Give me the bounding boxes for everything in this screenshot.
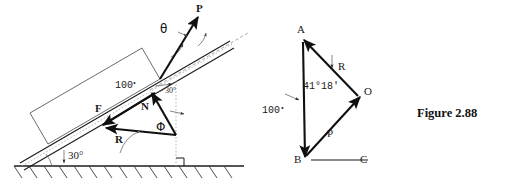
label-f-friction: F [95, 102, 102, 114]
figure-container: 100 • P θ F N R Φ 30° 30° [0, 0, 520, 185]
weight-unit-mark-left: • [133, 79, 136, 88]
incline-extension-dashed [150, 33, 248, 90]
ground-hatching [14, 166, 232, 178]
label-normal-angle: 30° [165, 86, 176, 95]
weight-unit-mark-right: • [281, 104, 284, 113]
triangle-side-ab-weight [303, 42, 305, 157]
theta-arc-secondary [198, 33, 206, 46]
vertex-label-a: A [297, 23, 305, 35]
weight-label-left: 100 [115, 80, 133, 91]
label-p-left: P [196, 2, 203, 14]
label-n-normal: N [141, 100, 149, 112]
label-incline-angle: 30° [68, 149, 83, 161]
weight-leader-tick-right [285, 94, 299, 100]
weight-leader-tick [170, 111, 184, 114]
left-diagram-group: 100 • P θ F N R Φ 30° 30° [14, 2, 248, 178]
phi-arc [120, 131, 140, 153]
right-diagram-group: A O B C R P 41°18' 100 • [262, 23, 372, 165]
label-triangle-angle: 41°18' [303, 81, 339, 92]
label-phi: Φ [156, 120, 165, 134]
block-body [30, 48, 160, 144]
figure-drawing: 100 • P θ F N R Φ 30° 30° [0, 0, 520, 185]
weight-label-right: 100 [262, 105, 280, 116]
vertex-label-b: B [294, 153, 301, 165]
label-r-right: R [338, 60, 346, 72]
label-r-resultant: R [115, 133, 124, 145]
label-theta: θ [160, 22, 167, 36]
vertex-label-o: O [364, 85, 372, 97]
right-angle-marker [176, 158, 184, 166]
figure-caption: Figure 2.88 [417, 106, 477, 120]
theta-leader [178, 32, 187, 36]
label-p-right: P [327, 127, 333, 139]
vertex-label-c: C [360, 153, 367, 165]
